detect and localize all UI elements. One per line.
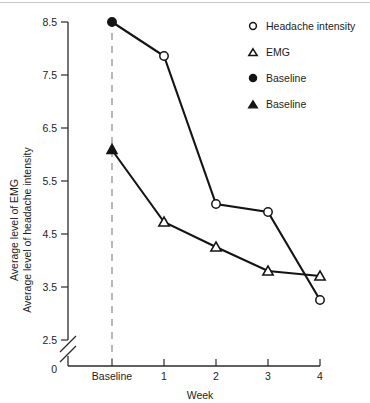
filled-triangle-icon — [249, 101, 258, 108]
chart-legend: Headache intensity EMG Baseline Baseline — [249, 20, 356, 110]
headache-intensity-line — [112, 22, 320, 300]
chart-figure: 8.5 7.5 6.5 5.5 4.5 3.5 2.5 0 Average le… — [0, 0, 370, 403]
legend-label-headache-intensity: Headache intensity — [266, 20, 356, 32]
legend-item-baseline-circle: Baseline — [249, 72, 306, 84]
y-tick-label-7-5: 7.5 — [42, 69, 57, 81]
y-tick-label-3-5: 3.5 — [42, 281, 57, 293]
line-chart: 8.5 7.5 6.5 5.5 4.5 3.5 2.5 0 Average le… — [0, 0, 370, 403]
y-axis-title-line-2: Average level of headache intensity — [21, 146, 33, 312]
y-tick-label-0: 0 — [51, 363, 57, 375]
series-headache-intensity — [108, 18, 324, 304]
emg-baseline-marker — [107, 144, 117, 154]
y-axis-title: Average level of EMG Average level of he… — [8, 146, 33, 312]
x-axis-title: Week — [187, 389, 214, 401]
x-tick-label-2: 2 — [213, 370, 219, 382]
legend-item-emg: EMG — [249, 46, 290, 58]
x-tick-label-1: 1 — [161, 370, 167, 382]
legend-label-baseline-triangle: Baseline — [266, 98, 306, 110]
legend-item-headache-intensity: Headache intensity — [250, 20, 356, 32]
y-tick-label-8-5: 8.5 — [42, 16, 57, 28]
y-axis-title-line-1: Average level of EMG — [8, 179, 20, 281]
x-axis: Baseline 1 2 3 4 Week — [68, 359, 323, 401]
filled-circle-icon — [249, 74, 256, 81]
emg-week2-marker — [211, 242, 221, 251]
open-circle-icon — [250, 23, 257, 30]
y-tick-label-4-5: 4.5 — [42, 228, 57, 240]
series-emg — [107, 144, 325, 280]
legend-label-emg: EMG — [266, 46, 290, 58]
y-axis: 8.5 7.5 6.5 5.5 4.5 3.5 2.5 0 — [42, 16, 76, 375]
x-tick-label-3: 3 — [265, 370, 271, 382]
legend-label-baseline-circle: Baseline — [266, 72, 306, 84]
y-tick-label-6-5: 6.5 — [42, 122, 57, 134]
headache-week3-marker — [264, 208, 272, 216]
x-tick-label-baseline: Baseline — [92, 370, 132, 382]
headache-baseline-marker — [108, 18, 117, 27]
open-triangle-icon — [249, 49, 257, 56]
x-tick-label-4: 4 — [317, 370, 323, 382]
y-tick-label-5-5: 5.5 — [42, 175, 57, 187]
headache-week1-marker — [160, 52, 168, 60]
y-tick-label-2-5: 2.5 — [42, 334, 57, 346]
headache-week2-marker — [212, 200, 220, 208]
headache-week4-marker — [316, 296, 324, 304]
emg-line — [112, 150, 320, 276]
legend-item-baseline-triangle: Baseline — [249, 98, 307, 110]
